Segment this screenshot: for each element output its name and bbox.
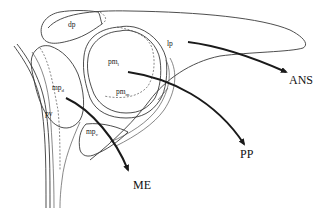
label-lp: lp [167, 39, 173, 48]
channel-cross-line [158, 88, 168, 100]
channel-line-2 [116, 58, 175, 146]
arrow-lp-to-ans [188, 42, 286, 72]
label-mp-v-sub: v [96, 132, 99, 137]
label-pm-l-sub: l [118, 62, 120, 67]
label-pm-m: pmm [116, 87, 130, 97]
hypothalamus-diagram: dp lp pml pmm mpd mpv pv ANS PP ME [0, 0, 325, 211]
label-dp: dp [68, 20, 76, 29]
label-pm-m-main: pm [116, 87, 126, 96]
channel-line-1 [110, 60, 169, 142]
label-me: ME [133, 178, 151, 192]
label-mp-v: mpv [86, 127, 99, 137]
ventricle-outer-line-1 [14, 46, 46, 208]
label-pp: PP [240, 147, 254, 161]
label-pm-m-sub: m [126, 92, 130, 97]
label-pm-l-main: pm [108, 57, 118, 66]
label-ans: ANS [289, 73, 313, 87]
dp-dashed-border [100, 12, 106, 24]
label-mp-d-sub: d [62, 88, 65, 93]
pm-outer-ring [83, 26, 166, 118]
label-mp-d: mpd [52, 83, 65, 93]
ventricle-outer-line-2 [17, 44, 50, 208]
median-eminence-line [60, 122, 80, 208]
label-mp-v-main: mp [86, 127, 96, 136]
label-pm-l: pml [108, 57, 120, 67]
label-pv: pv [45, 109, 53, 118]
label-mp-d-main: mp [52, 83, 62, 92]
